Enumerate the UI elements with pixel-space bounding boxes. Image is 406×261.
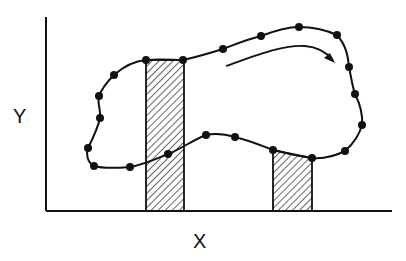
left-hatched-strip (146, 60, 184, 211)
axes (46, 17, 392, 211)
direction-arrow-icon (226, 46, 335, 66)
loop-diagram (0, 0, 406, 261)
y-axis-label: Y (13, 106, 26, 126)
x-axis-label: X (193, 231, 206, 251)
right-hatched-strip (273, 150, 312, 211)
loop-points (84, 23, 366, 171)
